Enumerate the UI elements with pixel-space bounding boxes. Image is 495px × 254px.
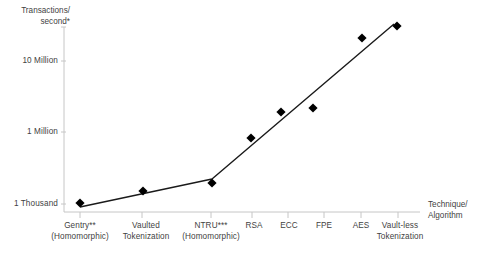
data-point-marker bbox=[308, 103, 317, 112]
axes bbox=[64, 27, 420, 212]
data-point-marker bbox=[276, 107, 285, 116]
chart-container: Transactions/ second* Technique/ Algorit… bbox=[0, 0, 495, 254]
x-axis-ticks bbox=[80, 212, 398, 218]
trend-line bbox=[80, 24, 394, 207]
data-point-markers bbox=[75, 21, 401, 207]
data-point-marker bbox=[392, 21, 401, 30]
data-point-marker bbox=[246, 133, 255, 142]
data-point-marker bbox=[357, 33, 366, 42]
plot-area bbox=[0, 0, 495, 254]
